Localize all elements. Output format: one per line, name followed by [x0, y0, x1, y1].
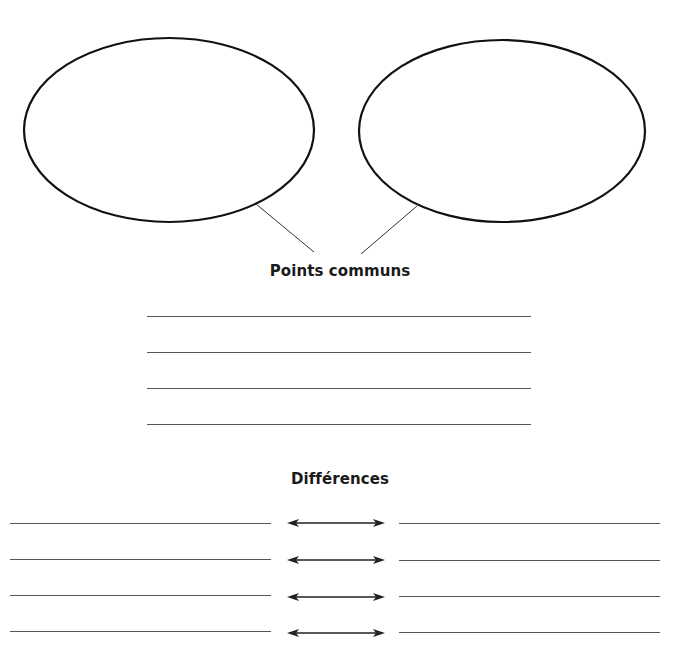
common-answer-line-4[interactable]	[147, 424, 531, 425]
double-arrow-icon	[287, 554, 385, 566]
double-arrow-icon	[287, 591, 385, 603]
common-points-heading: Points communs	[240, 262, 440, 280]
difference-left-line-4[interactable]	[10, 631, 271, 632]
difference-right-line-2[interactable]	[399, 560, 660, 561]
double-arrow-icon	[287, 517, 385, 529]
common-answer-line-1[interactable]	[147, 316, 531, 317]
left-bubble	[24, 38, 314, 222]
difference-right-line-4[interactable]	[399, 632, 660, 633]
common-answer-line-2[interactable]	[147, 352, 531, 353]
difference-left-line-2[interactable]	[10, 559, 271, 560]
difference-right-line-3[interactable]	[399, 596, 660, 597]
common-answer-line-3[interactable]	[147, 388, 531, 389]
left-connector	[256, 204, 314, 252]
double-arrow-icon	[287, 627, 385, 639]
difference-right-line-1[interactable]	[399, 523, 660, 524]
differences-heading: Différences	[240, 470, 440, 488]
right-bubble	[359, 40, 645, 222]
difference-left-line-3[interactable]	[10, 595, 271, 596]
difference-left-line-1[interactable]	[10, 523, 271, 524]
right-connector	[361, 206, 417, 254]
